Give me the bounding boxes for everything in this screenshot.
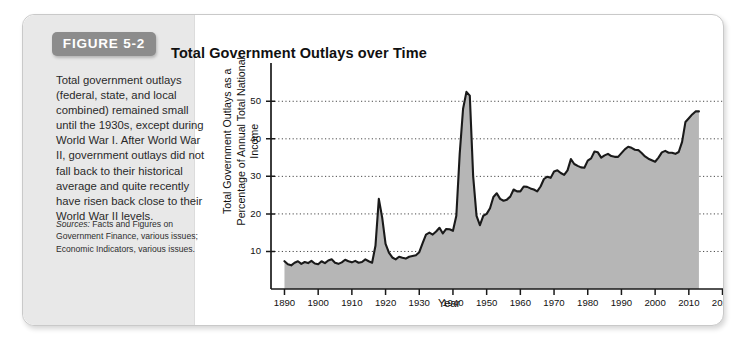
figure-caption-text: Total government outlays (federal, state… bbox=[56, 73, 207, 224]
sources-label: Sources: bbox=[56, 219, 90, 229]
x-tick-label: 2020 bbox=[703, 297, 724, 308]
y-tick-label: 50 bbox=[231, 95, 261, 106]
chart-svg bbox=[199, 61, 724, 325]
y-tick-label: 30 bbox=[231, 170, 261, 181]
chart-plot-area: Total Government Outlays as a Percentage… bbox=[199, 61, 724, 325]
figure-number-badge: FIGURE 5-2 bbox=[52, 32, 156, 56]
y-tick-label: 20 bbox=[231, 208, 261, 219]
figure-sources: Sources: Facts and Figures on Government… bbox=[56, 218, 211, 255]
y-tick-label: 10 bbox=[231, 245, 261, 256]
figure-container: FIGURE 5-2 Total government outlays (fed… bbox=[22, 14, 724, 326]
y-tick-label: 40 bbox=[231, 133, 261, 144]
chart-title: Total Government Outlays over Time bbox=[171, 45, 427, 61]
